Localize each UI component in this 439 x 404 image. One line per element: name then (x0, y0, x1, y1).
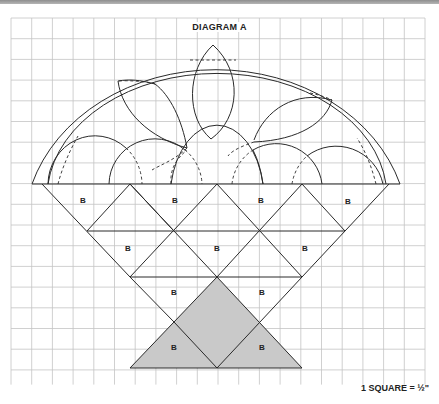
right-circle-1 (253, 144, 322, 184)
right-leaf-lower (254, 100, 332, 142)
piece-label-b: B (302, 244, 308, 253)
piece-label-b: B (125, 244, 131, 253)
piece-label-b: B (171, 343, 177, 352)
piece-label-b: B (345, 197, 351, 206)
piece-label-b: B (172, 196, 178, 205)
inner-arc (48, 73, 386, 184)
piece-label-b: B (171, 288, 177, 297)
right-circle-2 (307, 146, 383, 184)
diagram-title: DIAGRAM A (0, 22, 439, 32)
scale-label: 1 SQUARE = ½" (361, 383, 429, 393)
piece-label-b: B (259, 288, 265, 297)
piece-label-b: B (80, 196, 86, 205)
piece-label-b: B (214, 244, 220, 253)
piece-label-b: B (259, 343, 265, 352)
piece-label-b: B (258, 196, 264, 205)
left-circle-2 (109, 139, 185, 184)
outer-arc (32, 70, 400, 184)
quilt-diagram (0, 0, 439, 404)
